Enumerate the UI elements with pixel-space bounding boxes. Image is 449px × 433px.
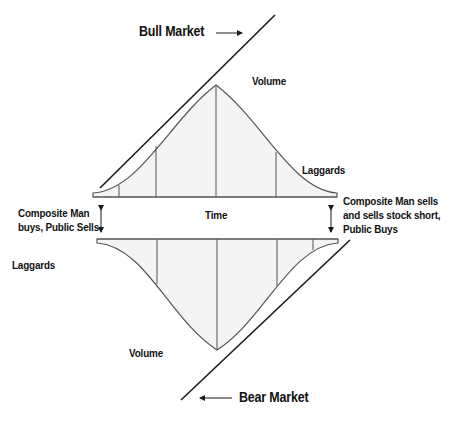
laggards-top-label: Laggards [302,163,345,177]
bear-market-label: Bear Market [239,389,309,405]
wyckoff-cycle-diagram: Bull Market Bear Market Volume Volume La… [0,0,449,433]
volume-top-label: Volume [252,74,286,88]
volume-bottom-label: Volume [129,346,163,360]
bull-volume-curve [93,85,337,197]
bear-volume-curve [97,239,338,350]
laggards-bottom-label: Laggards [12,258,55,272]
time-label: Time [205,208,227,222]
composite-man-sells-note: Composite Man sells and sells stock shor… [343,194,440,236]
composite-man-buys-note: Composite Man buys, Public Sells [18,206,99,234]
bull-market-label: Bull Market [139,23,204,39]
